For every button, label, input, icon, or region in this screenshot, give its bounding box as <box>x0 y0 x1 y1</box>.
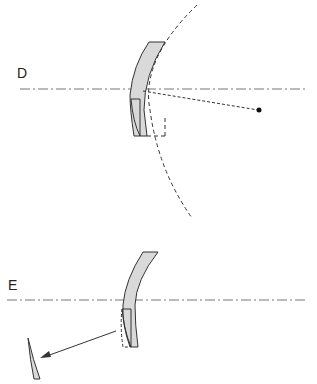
diagram-canvas <box>0 0 317 384</box>
reference-sphere-arc <box>149 5 197 218</box>
removal-arrow <box>44 331 116 357</box>
ray-to-focus <box>143 91 258 110</box>
removed-segment <box>28 338 40 379</box>
panel-d <box>20 5 305 218</box>
arrow-head-icon <box>40 351 51 358</box>
panel-e <box>7 252 305 379</box>
focal-point <box>257 108 262 113</box>
